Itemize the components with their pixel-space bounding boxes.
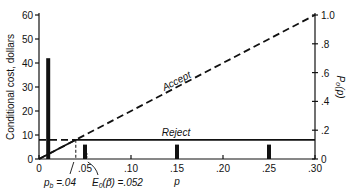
accept-label: Accept [159,68,193,93]
y-tick-label: 40 [22,58,34,69]
chart: 01020304050600.2.4.6.81.00.05.10.15.20.2… [0,0,354,192]
y-tick-label: 50 [22,34,34,45]
x-tick-label: 0 [36,163,42,174]
y-axis-title: Conditional cost, dollars [5,34,16,140]
e0-annotation: E0(p̃) =.052 [92,177,143,189]
probability-bar [175,145,179,159]
x-tick-label: .10 [124,163,138,174]
x-tick-label: .25 [262,163,276,174]
y2-tick-label: 1.0 [321,10,335,21]
probability-bar [46,58,50,159]
x-tick-label: .05 [78,163,92,174]
pb-arrow [70,162,74,174]
x-axis-title: p [173,176,180,187]
y-tick-label: 30 [22,82,34,93]
x-tick-label: .20 [216,163,230,174]
pb-annotation: pb =.04 [43,177,76,189]
accept-line-solid [39,140,76,159]
y2-tick-label: .4 [321,96,330,107]
y2-tick-label: .2 [321,125,330,136]
probability-bars [46,58,271,159]
x-tick-label: .15 [170,163,184,174]
x-tick-label: .30 [308,163,322,174]
y2-tick-label: .6 [321,68,330,79]
reject-label: Reject [162,127,192,138]
y-tick-label: 20 [22,106,34,117]
y-tick-label: 10 [22,130,34,141]
y-tick-label: 0 [27,154,33,165]
axes: 01020304050600.2.4.6.81.00.05.10.15.20.2… [5,10,346,187]
y2-tick-label: .8 [321,39,330,50]
probability-bar [267,145,271,159]
y-tick-label: 60 [22,10,34,21]
y2-axis-title: P₀(p) [335,75,346,98]
